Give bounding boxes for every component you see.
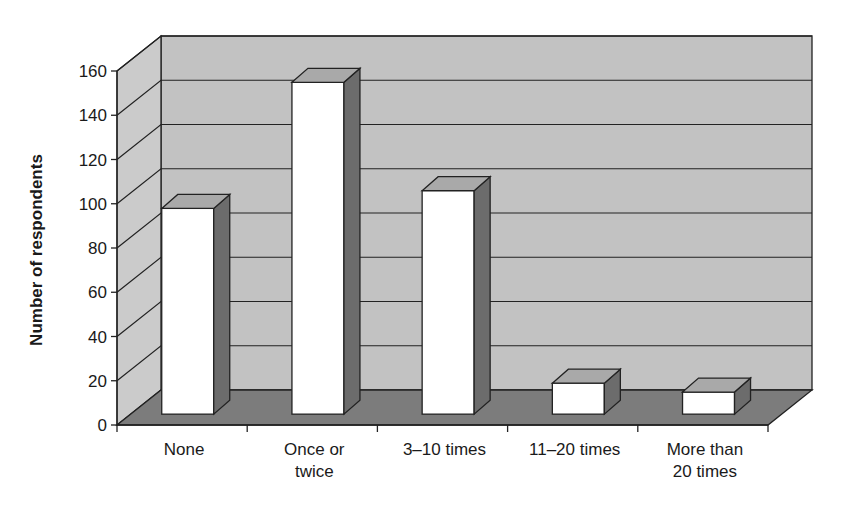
y-tick-label: 80 (88, 239, 107, 258)
x-category-label: None (164, 440, 205, 459)
bar-side (474, 177, 490, 414)
bar (422, 177, 490, 414)
y-tick-label: 120 (79, 151, 107, 170)
bar (552, 369, 620, 414)
bar-side (344, 68, 360, 414)
y-axis: 020406080100120140160 (79, 62, 117, 435)
x-category-label: 3–10 times (403, 440, 486, 459)
y-tick-label: 40 (88, 328, 107, 347)
y-tick-label: 160 (79, 62, 107, 81)
y-tick-label: 20 (88, 372, 107, 391)
bar-front (292, 82, 344, 414)
x-category-label: More than (667, 440, 744, 459)
x-axis: NoneOnce ortwice3–10 times11–20 timesMor… (117, 425, 768, 481)
bar (292, 68, 360, 414)
y-tick-label: 100 (79, 195, 107, 214)
x-category-label: 11–20 times (529, 440, 620, 459)
bar-side (214, 194, 230, 414)
bar-front (683, 392, 735, 414)
x-category-label: Once or (284, 440, 345, 459)
y-tick-label: 60 (88, 283, 107, 302)
bar-front (552, 383, 604, 414)
y-tick-label: 140 (79, 106, 107, 125)
bar-chart-3d: 020406080100120140160 NoneOnce ortwice3–… (0, 0, 846, 514)
bar (683, 378, 751, 414)
bar-front (162, 208, 214, 414)
y-axis-title: Number of respondents (27, 154, 46, 346)
bar (162, 194, 230, 414)
x-category-label: 20 times (673, 462, 737, 481)
bar-front (422, 191, 474, 414)
x-category-label: twice (295, 462, 334, 481)
y-tick-label: 0 (98, 416, 107, 435)
